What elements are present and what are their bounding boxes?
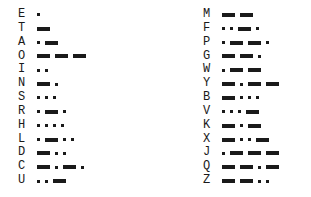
dash-symbol — [45, 110, 58, 114]
letter-label: J — [203, 146, 222, 160]
letter-label: E — [18, 8, 37, 22]
dash-symbol — [37, 27, 50, 31]
letter-label: D — [18, 146, 37, 160]
morse-row-W: W — [203, 63, 279, 77]
morse-row-X: X — [203, 133, 279, 147]
letter-label: H — [18, 119, 37, 133]
morse-code-symbols — [222, 110, 259, 114]
morse-code-symbols — [37, 124, 64, 127]
letter-label: A — [18, 36, 37, 50]
letter-label: Y — [203, 77, 222, 91]
morse-code-symbols — [222, 179, 269, 183]
dot-symbol — [240, 83, 243, 86]
dot-symbol — [37, 69, 40, 72]
dash-symbol — [63, 165, 76, 169]
dash-symbol — [230, 41, 243, 45]
morse-code-symbols — [222, 165, 279, 169]
dot-symbol — [45, 124, 48, 127]
dash-symbol — [222, 82, 235, 86]
dash-symbol — [222, 13, 235, 17]
dot-symbol — [240, 96, 243, 99]
morse-row-K: K — [203, 119, 279, 133]
dot-symbol — [238, 110, 241, 113]
dash-symbol — [248, 82, 261, 86]
dash-symbol — [53, 179, 66, 183]
dash-symbol — [248, 41, 261, 45]
dot-symbol — [45, 69, 48, 72]
dot-symbol — [45, 180, 48, 183]
dot-symbol — [63, 110, 66, 113]
dash-symbol — [222, 54, 235, 58]
letter-label: L — [18, 133, 37, 147]
dot-symbol — [53, 96, 56, 99]
dash-symbol — [45, 41, 58, 45]
letter-label: T — [18, 22, 37, 36]
dot-symbol — [37, 138, 40, 141]
morse-row-M: M — [203, 8, 279, 22]
morse-row-O: O — [18, 50, 86, 64]
letter-label: K — [203, 119, 222, 133]
letter-label: B — [203, 91, 222, 105]
letter-label: O — [18, 50, 37, 64]
dot-symbol — [230, 27, 233, 30]
morse-code-symbols — [222, 138, 269, 142]
morse-code-symbols — [222, 96, 259, 100]
morse-code-symbols — [222, 41, 269, 45]
dash-symbol — [37, 54, 50, 58]
morse-code-symbols — [222, 27, 259, 31]
dot-symbol — [55, 152, 58, 155]
morse-code-symbols — [37, 69, 48, 72]
morse-code-symbols — [37, 138, 74, 142]
dash-symbol — [230, 68, 243, 72]
dot-symbol — [37, 110, 40, 113]
dash-symbol — [222, 138, 235, 142]
letter-label: U — [18, 174, 37, 188]
dash-symbol — [37, 82, 50, 86]
dash-symbol — [240, 13, 253, 17]
dash-symbol — [37, 151, 50, 155]
morse-code-symbols — [222, 82, 279, 86]
letter-label: Q — [203, 160, 222, 174]
letter-label: W — [203, 63, 222, 77]
morse-code-symbols — [37, 96, 56, 99]
dot-symbol — [71, 138, 74, 141]
morse-row-C: C — [18, 160, 86, 174]
dash-symbol — [248, 68, 261, 72]
letter-label: N — [18, 77, 37, 91]
dot-symbol — [258, 180, 261, 183]
morse-code-symbols — [37, 165, 84, 169]
dot-symbol — [55, 166, 58, 169]
morse-code-symbols — [37, 27, 50, 31]
morse-row-G: G — [203, 50, 279, 64]
letter-label: C — [18, 160, 37, 174]
dash-symbol — [240, 179, 253, 183]
letter-label: S — [18, 91, 37, 105]
dash-symbol — [230, 151, 243, 155]
dot-symbol — [37, 41, 40, 44]
dash-symbol — [222, 179, 235, 183]
morse-code-symbols — [222, 124, 261, 128]
dot-symbol — [45, 96, 48, 99]
letter-label: R — [18, 105, 37, 119]
morse-code-symbols — [37, 54, 86, 58]
dash-symbol — [37, 165, 50, 169]
dot-symbol — [248, 138, 251, 141]
letter-label: Z — [203, 174, 222, 188]
dash-symbol — [266, 151, 279, 155]
morse-row-T: T — [18, 22, 86, 36]
morse-row-Q: Q — [203, 160, 279, 174]
dot-symbol — [222, 27, 225, 30]
dot-symbol — [248, 96, 251, 99]
dash-symbol — [266, 82, 279, 86]
dash-symbol — [73, 54, 86, 58]
dash-symbol — [222, 96, 235, 100]
morse-row-S: S — [18, 91, 86, 105]
dot-symbol — [53, 124, 56, 127]
letter-label: F — [203, 22, 222, 36]
dash-symbol — [240, 165, 253, 169]
letter-label: I — [18, 63, 37, 77]
morse-row-P: P — [203, 36, 279, 50]
morse-code-symbols — [37, 82, 58, 86]
morse-code-symbols — [222, 54, 261, 58]
dash-symbol — [55, 54, 68, 58]
